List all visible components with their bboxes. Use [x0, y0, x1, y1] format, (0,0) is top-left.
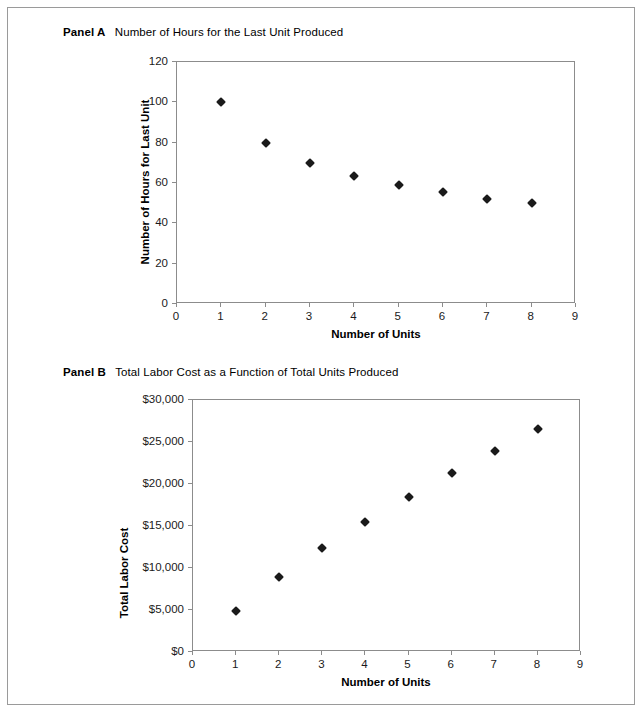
- x-tick-mark: [265, 303, 266, 307]
- panel-b-caption: Panel B Total Labor Cost as a Function o…: [63, 366, 398, 378]
- y-tick-label: $15,000: [126, 519, 184, 531]
- x-tick-label: 5: [404, 658, 410, 670]
- x-tick-label: 9: [572, 310, 578, 322]
- x-tick-label: 6: [447, 658, 453, 670]
- x-tick-mark: [486, 303, 487, 307]
- x-tick-mark: [408, 651, 409, 655]
- x-tick-label: 1: [232, 658, 238, 670]
- x-tick-label: 3: [306, 310, 312, 322]
- y-tick-mark: [188, 483, 192, 484]
- panel-b-caption-text: Total Labor Cost as a Function of Total …: [115, 366, 398, 378]
- x-tick-label: 6: [439, 310, 445, 322]
- y-tick-mark: [188, 399, 192, 400]
- y-tick-mark: [172, 182, 176, 183]
- figure-frame: Panel A Number of Hours for the Last Uni…: [7, 7, 635, 705]
- y-tick-mark: [188, 441, 192, 442]
- y-tick-label: 120: [144, 55, 168, 67]
- data-point: [274, 572, 284, 582]
- x-tick-mark: [580, 651, 581, 655]
- y-tick-label: $20,000: [126, 477, 184, 489]
- data-point: [305, 158, 315, 168]
- data-point: [349, 171, 359, 181]
- panel-a-caption: Panel A Number of Hours for the Last Uni…: [63, 26, 343, 38]
- panel-a-plot-area: [176, 61, 575, 303]
- x-tick-label: 2: [275, 658, 281, 670]
- x-tick-mark: [494, 651, 495, 655]
- x-tick-mark: [321, 651, 322, 655]
- x-tick-mark: [575, 303, 576, 307]
- x-tick-mark: [278, 651, 279, 655]
- x-tick-label: 4: [361, 658, 367, 670]
- y-tick-mark: [188, 525, 192, 526]
- data-point: [360, 517, 370, 527]
- data-point: [394, 180, 404, 190]
- y-tick-mark: [172, 61, 176, 62]
- y-tick-mark: [172, 101, 176, 102]
- panel-a-caption-tag: Panel A: [63, 26, 105, 38]
- data-point: [438, 187, 448, 197]
- panel-b-plot-area: [192, 399, 580, 651]
- x-tick-mark: [353, 303, 354, 307]
- y-tick-mark: [172, 142, 176, 143]
- x-tick-label: 4: [350, 310, 356, 322]
- x-tick-mark: [176, 303, 177, 307]
- y-tick-mark: [172, 222, 176, 223]
- y-tick-label: $10,000: [126, 561, 184, 573]
- x-tick-mark: [451, 651, 452, 655]
- x-tick-label: 8: [534, 658, 540, 670]
- data-point: [482, 194, 492, 204]
- panel-b-yaxis-title: Total Labor Cost: [118, 528, 130, 619]
- data-point: [404, 492, 414, 502]
- panel-a-caption-text: Number of Hours for the Last Unit Produc…: [115, 26, 344, 38]
- panel-b-caption-tag: Panel B: [63, 366, 106, 378]
- data-point: [317, 543, 327, 553]
- x-tick-label: 0: [189, 658, 195, 670]
- x-tick-mark: [220, 303, 221, 307]
- y-tick-label: $0: [126, 645, 184, 657]
- x-tick-mark: [235, 651, 236, 655]
- panel-b-xaxis-title: Number of Units: [341, 676, 430, 688]
- panel-a-yaxis-title: Number of Hours for Last Unit: [139, 100, 151, 265]
- data-point: [447, 468, 457, 478]
- data-point: [261, 138, 271, 148]
- x-tick-mark: [192, 651, 193, 655]
- x-tick-mark: [442, 303, 443, 307]
- y-tick-label: $5,000: [126, 603, 184, 615]
- x-tick-label: 0: [173, 310, 179, 322]
- panel-a-xaxis-title: Number of Units: [331, 328, 420, 340]
- x-tick-mark: [309, 303, 310, 307]
- x-tick-label: 2: [261, 310, 267, 322]
- x-tick-label: 1: [217, 310, 223, 322]
- x-tick-mark: [398, 303, 399, 307]
- y-tick-label: 0: [144, 297, 168, 309]
- x-tick-label: 7: [483, 310, 489, 322]
- y-tick-mark: [188, 567, 192, 568]
- x-tick-mark: [531, 303, 532, 307]
- x-tick-label: 3: [318, 658, 324, 670]
- y-tick-mark: [188, 609, 192, 610]
- y-tick-label: $25,000: [126, 435, 184, 447]
- data-point: [527, 198, 537, 208]
- x-tick-label: 5: [394, 310, 400, 322]
- x-tick-mark: [364, 651, 365, 655]
- x-tick-mark: [537, 651, 538, 655]
- data-point: [216, 97, 226, 107]
- x-tick-label: 9: [577, 658, 583, 670]
- data-point: [490, 446, 500, 456]
- y-tick-label: $30,000: [126, 393, 184, 405]
- x-tick-label: 8: [527, 310, 533, 322]
- y-tick-mark: [172, 263, 176, 264]
- data-point: [231, 606, 241, 616]
- data-point: [533, 424, 543, 434]
- x-tick-label: 7: [491, 658, 497, 670]
